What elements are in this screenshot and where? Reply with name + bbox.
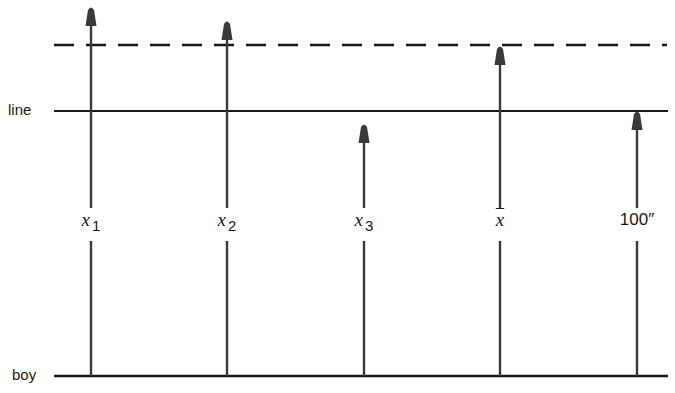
- measurement-diagram: [0, 0, 675, 393]
- arrowhead-up-icon: [359, 125, 370, 144]
- arrow-label-x3: x3: [334, 210, 394, 231]
- arrow-label-text: 100″: [620, 210, 654, 229]
- line-level-label: line: [8, 102, 31, 118]
- arrow-label-x1: x1: [61, 210, 121, 231]
- boy-level-label: boy: [12, 367, 36, 383]
- arrow-label-subscript: 3: [365, 217, 373, 234]
- arrowhead-up-icon: [86, 8, 97, 27]
- arrow-label-100in: 100″: [607, 210, 667, 230]
- arrowhead-up-icon: [222, 22, 233, 41]
- arrow-label-subscript: 2: [228, 217, 236, 234]
- arrow-label-subscript: 1: [92, 217, 100, 234]
- arrowhead-up-icon: [495, 47, 506, 66]
- arrow-label-x2: x2: [197, 210, 257, 231]
- arrows-group: [86, 8, 643, 377]
- arrow-label-variable: x: [355, 209, 363, 230]
- arrowhead-up-icon: [632, 112, 643, 131]
- arrow-label-variable: x: [82, 209, 90, 230]
- arrow-label-variable: x: [218, 209, 226, 230]
- arrow-label-xbar: x: [470, 210, 530, 231]
- diagram-canvas: line boy x1x2x3x100″: [0, 0, 675, 393]
- arrow-label-variable: x: [496, 209, 504, 230]
